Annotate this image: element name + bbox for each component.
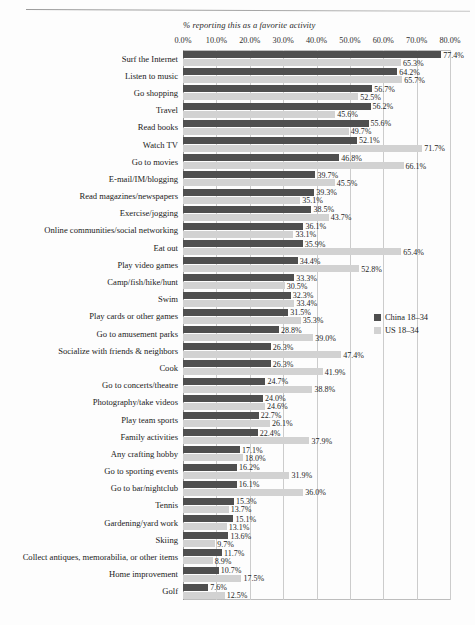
- x-tick-label: 10.0%: [206, 36, 227, 45]
- category-label: Cook: [159, 363, 178, 373]
- bar-row: Go to sporting events16.2%31.9%: [183, 463, 450, 480]
- bar-china: 33.3%: [183, 274, 294, 281]
- category-label: Collect antiques, memorabilia, or other …: [23, 552, 178, 562]
- category-label: Swim: [158, 294, 178, 304]
- bar-us: 66.1%: [183, 162, 404, 169]
- bar-china: 39.7%: [183, 171, 315, 178]
- category-label: Socialize with friends & neighbors: [58, 346, 178, 356]
- x-tick-label: 0.0%: [174, 36, 191, 45]
- bar-row: Listen to music64.2%65.7%: [183, 67, 450, 84]
- bar-china: 15.1%: [183, 515, 233, 522]
- bar-value-label: 56.2%: [373, 102, 394, 111]
- x-tick-label: 80.0%: [439, 36, 460, 45]
- bar-row: Home improvement10.7%17.5%: [183, 566, 450, 583]
- bar-row: E-mail/IM/blogging39.7%45.5%: [183, 170, 450, 187]
- bar-row: Photography/take videos24.0%24.6%: [183, 394, 450, 411]
- bar-value-label: 33.1%: [295, 230, 316, 239]
- bar-china: 32.3%: [183, 292, 291, 299]
- bar-china: 22.7%: [183, 412, 259, 419]
- bar-row: Go to movies46.8%66.1%: [183, 153, 450, 170]
- bar-row: Go to bar/nightclub16.1%36.0%: [183, 480, 450, 497]
- bar-us: 71.7%: [183, 145, 422, 152]
- bar-us: 65.4%: [183, 248, 401, 255]
- category-label: Any crafting hobby: [111, 449, 178, 459]
- category-label: Go shopping: [134, 88, 178, 98]
- bar-us: 26.1%: [183, 420, 270, 427]
- bar-value-label: 17.5%: [243, 574, 264, 583]
- bar-china: 16.1%: [183, 481, 237, 488]
- category-label: Home improvement: [109, 569, 178, 579]
- bar-us: 9.7%: [183, 540, 215, 547]
- bar-row: Watch TV52.1%71.7%: [183, 136, 450, 153]
- x-tick-label: 40.0%: [306, 36, 327, 45]
- gridline: [450, 50, 451, 600]
- bar-us: 49.7%: [183, 128, 349, 135]
- bar-row: Exercise/jogging38.5%43.7%: [183, 205, 450, 222]
- bar-value-label: 26.1%: [272, 419, 293, 428]
- bar-us: 65.7%: [183, 76, 402, 83]
- bar-row: Cook26.3%41.9%: [183, 359, 450, 376]
- bar-us: 8.9%: [183, 557, 213, 564]
- bar-value-label: 52.5%: [360, 92, 381, 101]
- x-tick-label: 70.0%: [406, 36, 427, 45]
- bar-value-label: 65.3%: [403, 58, 424, 67]
- chart-legend: China 18–34US 18–34: [374, 311, 428, 337]
- bar-value-label: 24.7%: [267, 377, 288, 386]
- x-tick-label: 20.0%: [239, 36, 260, 45]
- bar-value-label: 35.3%: [303, 316, 324, 325]
- bar-value-label: 39.7%: [317, 170, 338, 179]
- bar-row: Tennis15.3%13.7%: [183, 497, 450, 514]
- bar-value-label: 43.7%: [331, 213, 352, 222]
- bar-china: 22.4%: [183, 429, 258, 436]
- x-tick-label: 60.0%: [373, 36, 394, 45]
- bar-value-label: 10.7%: [221, 566, 242, 575]
- bar-value-label: 7.6%: [210, 583, 227, 592]
- bar-row: Play video games34.4%52.8%: [183, 256, 450, 273]
- bar-china: 24.0%: [183, 395, 263, 402]
- legend-item: US 18–34: [374, 324, 428, 337]
- bar-row: Travel56.2%45.6%: [183, 102, 450, 119]
- category-label: Play cards or other games: [89, 311, 178, 321]
- bar-china: 10.7%: [183, 567, 219, 574]
- bar-us: 36.0%: [183, 489, 303, 496]
- bar-us: 24.6%: [183, 403, 265, 410]
- bar-value-label: 9.7%: [217, 539, 234, 548]
- bar-value-label: 12.5%: [227, 591, 248, 600]
- bar-china: 15.3%: [183, 498, 234, 505]
- bar-china: 46.8%: [183, 154, 339, 161]
- category-label: Surf the Internet: [122, 54, 178, 64]
- category-label: Exercise/jogging: [120, 208, 178, 218]
- bar-value-label: 41.9%: [325, 367, 346, 376]
- category-label: Read books: [138, 122, 178, 132]
- bar-china: 39.3%: [183, 189, 314, 196]
- category-label: Family activities: [120, 432, 178, 442]
- bar-value-label: 52.1%: [359, 136, 380, 145]
- category-label: Go to movies: [132, 157, 178, 167]
- bar-us: 17.5%: [183, 575, 241, 582]
- bar-value-label: 16.2%: [239, 463, 260, 472]
- category-label: Camp/fish/hike/hunt: [107, 277, 178, 287]
- bar-row: Go shopping56.7%52.5%: [183, 84, 450, 101]
- bar-value-label: 16.1%: [239, 480, 260, 489]
- category-label: Golf: [162, 586, 178, 596]
- bar-row: Family activities22.4%37.9%: [183, 428, 450, 445]
- bar-us: 35.3%: [183, 317, 301, 324]
- x-axis-title: % reporting this as a favorite activity: [183, 20, 315, 30]
- bar-value-label: 37.9%: [311, 436, 332, 445]
- bar-us: 18.0%: [183, 454, 243, 461]
- bar-value-label: 45.6%: [337, 110, 358, 119]
- bar-value-label: 30.5%: [287, 281, 308, 290]
- bar-value-label: 26.3%: [273, 359, 294, 368]
- bar-china: 52.1%: [183, 137, 357, 144]
- bar-value-label: 33.4%: [296, 299, 317, 308]
- chart-page: % reporting this as a favorite activity …: [0, 0, 475, 625]
- bar-row: Go to concerts/theatre24.7%38.8%: [183, 377, 450, 394]
- bar-china: 13.6%: [183, 532, 228, 539]
- bar-row: Golf7.6%12.5%: [183, 583, 450, 600]
- bar-row: Surf the Internet77.4%65.3%: [183, 50, 450, 67]
- category-label: Skiing: [156, 535, 178, 545]
- bar-row: Socialize with friends & neighbors26.3%4…: [183, 342, 450, 359]
- bar-value-label: 13.1%: [229, 522, 250, 531]
- bar-value-label: 49.7%: [351, 127, 372, 136]
- bar-value-label: 34.4%: [300, 256, 321, 265]
